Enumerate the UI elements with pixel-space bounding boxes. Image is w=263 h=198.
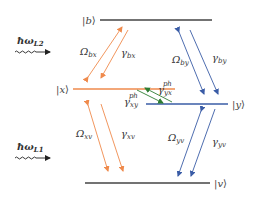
laser-L2-label: ħωL2 — [17, 35, 44, 48]
gamma-xy-ph-label: γxyph — [124, 92, 139, 109]
gamma-by-label: γby — [212, 52, 227, 65]
omega-bx-label: Ωbx — [79, 46, 97, 59]
gamma-xv-arrow — [101, 104, 123, 171]
level-v-label: |v⟩ — [214, 178, 227, 190]
laser-L1: ħωL1 — [15, 141, 50, 159]
omega-by-label: Ωby — [171, 54, 190, 67]
level-x-label: |x⟩ — [56, 84, 69, 96]
gamma-yv-label: γyv — [212, 136, 226, 149]
gamma-xv-label: γxv — [121, 128, 135, 141]
level-b-label: |b⟩ — [82, 15, 96, 27]
gamma-bx-label: γbx — [121, 47, 135, 60]
level-y-label: |y⟩ — [232, 99, 245, 111]
wavy-arrow-icon — [15, 157, 50, 159]
energy-level-diagram: |b⟩ |x⟩ |y⟩ |v⟩ ħωL2 ħωL1 Ωbx γbx Ωby γb… — [0, 0, 263, 198]
laser-L1-label: ħωL1 — [17, 141, 44, 154]
laser-L2: ħωL2 — [15, 35, 50, 53]
wavy-arrow-icon — [15, 51, 50, 53]
omega-xv-label: Ωxv — [75, 128, 92, 141]
omega-yv-label: Ωyv — [167, 132, 184, 145]
gamma-yx-ph-label: γyxph — [158, 80, 172, 97]
